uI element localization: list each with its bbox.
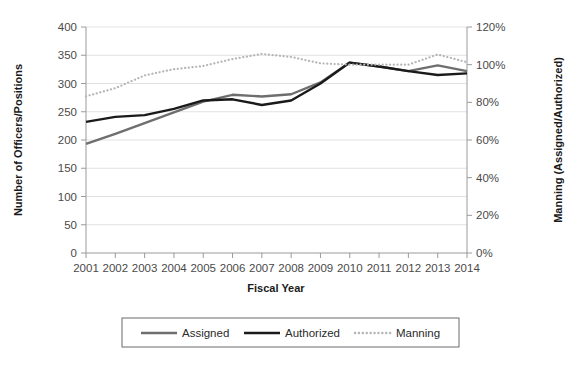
x-axis-tick-label: 2003 — [132, 262, 158, 274]
x-axis-tick-label: 2007 — [249, 262, 275, 274]
x-axis-tick-label: 2011 — [367, 262, 392, 274]
y-axis-right-tick-label: 60% — [476, 134, 499, 146]
y-axis-left-tick-label: 250 — [58, 106, 77, 118]
x-axis-tick-label: 2014 — [454, 262, 480, 274]
legend-label-assigned: Assigned — [182, 327, 229, 339]
y-axis-left-tick-label: 350 — [58, 49, 77, 61]
y-axis-right: 0%20%40%60%80%100%120% — [467, 21, 505, 259]
x-axis-tick-label: 2001 — [73, 262, 99, 274]
y-axis-right-tick-label: 100% — [476, 59, 505, 71]
y-axis-left-tick-label: 150 — [58, 162, 77, 174]
x-axis-tick-label: 2002 — [103, 262, 129, 274]
legend-label-manning: Manning — [396, 327, 440, 339]
x-axis-tick-label: 2006 — [220, 262, 246, 274]
x-axis: 2001200220032004200520062007200820092010… — [73, 253, 480, 274]
line-chart: 050100150200250300350400 0%20%40%60%80%1… — [0, 0, 581, 369]
legend-items: AssignedAuthorizedManning — [141, 327, 440, 339]
y-axis-right-tick-label: 20% — [476, 209, 499, 221]
x-axis-tick-label: 2013 — [425, 262, 451, 274]
x-axis-tick-label: 2012 — [396, 262, 422, 274]
x-axis-tick-label: 2010 — [337, 262, 363, 274]
y-axis-left-tick-label: 400 — [58, 21, 77, 33]
legend-label-authorized: Authorized — [285, 327, 340, 339]
chart-container: 050100150200250300350400 0%20%40%60%80%1… — [0, 0, 581, 369]
y-axis-left-tick-label: 200 — [58, 134, 77, 146]
x-axis-tick-label: 2005 — [190, 262, 216, 274]
y-axis-right-tick-label: 80% — [476, 96, 499, 108]
y-axis-left-tick-label: 0 — [71, 247, 77, 259]
y-axis-left-tick-label: 50 — [64, 219, 77, 231]
y-axis-left-tick-label: 300 — [58, 78, 77, 90]
y-axis-right-tick-label: 120% — [476, 21, 505, 33]
y-axis-left-tick-label: 100 — [58, 191, 77, 203]
x-axis-tick-label: 2004 — [161, 262, 187, 274]
y-axis-left: 050100150200250300350400 — [58, 21, 86, 259]
y-axis-right-tick-label: 40% — [476, 172, 499, 184]
y-axis-right-title: Manning (Assigned/Authorized) — [552, 57, 564, 223]
y-axis-left-title: Number of Officers/Positions — [12, 64, 24, 216]
chart-legend: AssignedAuthorizedManning — [122, 318, 459, 347]
y-axis-right-tick-label: 0% — [476, 247, 493, 259]
x-axis-title: Fiscal Year — [247, 282, 305, 294]
x-axis-tick-label: 2009 — [308, 262, 334, 274]
x-axis-tick-label: 2008 — [278, 262, 304, 274]
